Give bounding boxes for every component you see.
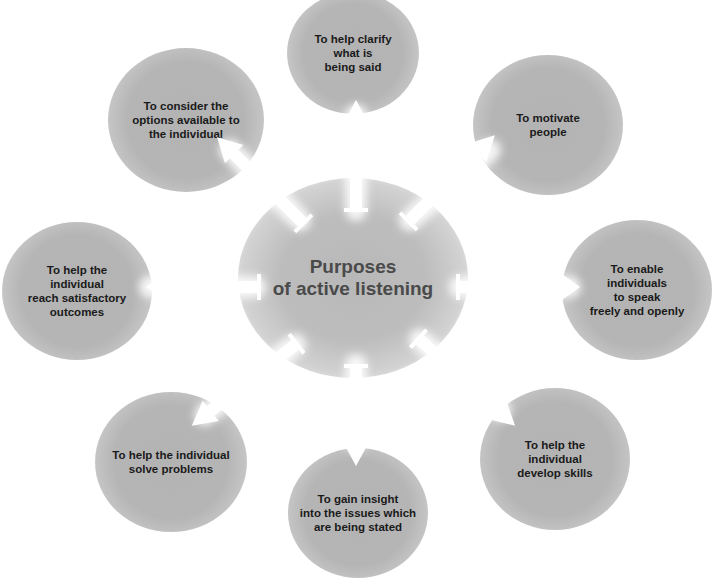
- arrow-down-left-icon: [184, 332, 306, 436]
- arrow-up-left-icon: [208, 128, 314, 234]
- arrow-down-right-icon: [408, 328, 523, 436]
- arrow-up-right-icon: [398, 126, 504, 232]
